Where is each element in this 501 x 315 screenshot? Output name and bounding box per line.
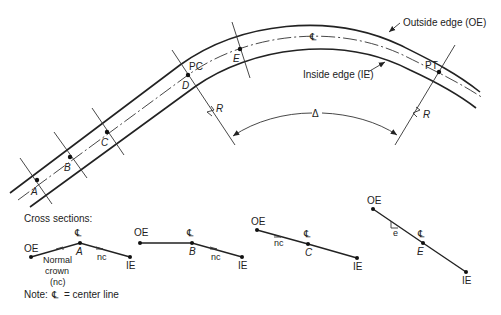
section-b-oe: OE	[134, 227, 149, 238]
section-b-nc: nc	[211, 252, 221, 262]
note-text: = center line	[64, 289, 119, 300]
radius-label-right: R	[423, 109, 430, 120]
note-prefix: Note:	[24, 289, 48, 300]
curve-diagram: A B C D E PC PT ℄ Outside edge (OE) Insi…	[0, 0, 501, 315]
section-e-station: E	[417, 246, 424, 257]
section-b-ie: IE	[238, 260, 248, 271]
section-c-cl: ℄	[303, 228, 311, 239]
section-e-profile	[373, 209, 466, 272]
outside-edge-line	[10, 25, 480, 193]
delta-label: Δ	[312, 108, 319, 119]
section-c-oe: OE	[251, 216, 266, 227]
station-d-label: D	[182, 80, 189, 91]
radius-label-left: R	[216, 103, 223, 114]
delta-arc-right	[322, 113, 397, 135]
note: Note: ℄ = center line	[24, 289, 119, 300]
inside-edge-arrow	[368, 62, 385, 72]
station-c-point	[105, 130, 109, 134]
normal-crown-label-1: Normal	[43, 255, 72, 265]
normal-crown-label-3: (nc)	[50, 277, 66, 287]
section-e-oe: OE	[367, 195, 382, 206]
station-b-label: B	[64, 162, 71, 173]
station-d-point	[186, 73, 190, 77]
pt-label: PT	[425, 60, 438, 71]
centerline-symbol-label: ℄	[309, 31, 317, 42]
outside-edge-arrow	[389, 23, 400, 32]
section-a-oe: OE	[24, 243, 39, 254]
station-b-point	[68, 155, 72, 159]
centerline	[18, 36, 483, 200]
normal-crown-label-2: crown	[45, 266, 69, 276]
station-e-point	[238, 47, 242, 51]
station-a-label: A	[30, 186, 38, 197]
section-e-e: e	[393, 228, 398, 238]
inside-edge-label: Inside edge (IE)	[303, 69, 374, 80]
pc-label: PC	[189, 61, 203, 72]
section-c-nc: nc	[274, 238, 284, 248]
cross-sections-title: Cross sections:	[24, 213, 92, 224]
cross-section-e: OE ℄ E e IE	[367, 195, 472, 286]
cross-section-a: OE ℄ A nc IE Normal crown (nc)	[24, 227, 136, 287]
station-a-point	[35, 178, 39, 182]
section-c-ie: IE	[353, 261, 363, 272]
section-a-station: A	[75, 246, 83, 257]
station-c-label: C	[101, 137, 109, 148]
cross-sections: Cross sections: OE ℄ A nc IE Normal crow…	[24, 195, 472, 300]
section-a-cl: ℄	[74, 227, 82, 238]
note-symbol: ℄	[51, 289, 59, 300]
delta-arc-left	[233, 113, 312, 136]
section-a-ie: IE	[126, 260, 136, 271]
station-e-label: E	[233, 53, 240, 64]
outside-edge-label: Outside edge (OE)	[403, 17, 486, 28]
cross-section-b: OE ℄ B nc IE	[134, 227, 248, 271]
section-b-station: B	[189, 246, 196, 257]
section-e-ie: IE	[462, 275, 472, 286]
section-c-station: C	[305, 247, 313, 258]
plan-view: A B C D E PC PT ℄ Outside edge (OE) Insi…	[10, 17, 486, 207]
cross-section-c: OE ℄ C nc IE	[251, 216, 363, 272]
section-b-cl: ℄	[186, 227, 194, 238]
section-a-nc: nc	[97, 252, 107, 262]
section-e-cl: ℄	[417, 228, 425, 239]
